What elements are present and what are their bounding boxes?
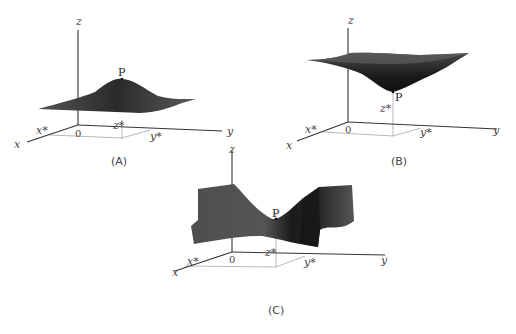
point-p-label: P <box>272 207 280 220</box>
x-star-label: x* <box>36 124 48 137</box>
y-star-label: y* <box>149 130 162 143</box>
origin-label: 0 <box>75 128 81 139</box>
origin-label: 0 <box>229 254 235 265</box>
base-guide <box>323 128 421 136</box>
base-guide <box>50 130 150 138</box>
panel-a: P z y x 0 x* z* y* (A) <box>14 15 234 168</box>
y-axis-label: y <box>492 124 500 137</box>
figure-canvas: P z y x 0 x* z* y* (A) P z y x 0 x* z* y… <box>0 0 516 334</box>
x-star-label: x* <box>305 123 317 136</box>
point-p-label: P <box>118 66 126 79</box>
y-axis-label: y <box>226 125 234 138</box>
x-axis <box>175 252 232 271</box>
z-axis-label: z <box>75 15 82 28</box>
surface-saddle-shadow <box>300 187 320 247</box>
point-p-marker <box>392 91 395 94</box>
y-axis-label: y <box>380 254 388 267</box>
z-star-label: z* <box>112 119 125 132</box>
x-star-label: x* <box>187 255 199 268</box>
z-axis-label: z <box>228 143 235 156</box>
x-axis <box>27 125 78 142</box>
x-axis-label: x <box>286 139 293 152</box>
surface-maximum <box>38 79 196 113</box>
z-star-label: z* <box>264 246 277 259</box>
panel-b: P z y x 0 x* z* y* (B) <box>286 14 500 168</box>
z-star-label: z* <box>379 102 392 115</box>
x-axis-label: x <box>172 266 179 279</box>
caption-c: (C) <box>268 304 284 317</box>
caption-a: (A) <box>111 155 127 168</box>
x-axis-label: x <box>14 138 21 151</box>
y-axis <box>232 252 385 255</box>
point-p-label: P <box>395 91 403 104</box>
z-axis-label: z <box>347 14 354 27</box>
panel-c: P z y x 0 x* z* y* (C) <box>172 143 388 317</box>
caption-b: (B) <box>391 155 407 168</box>
y-star-label: y* <box>419 126 432 139</box>
origin-label: 0 <box>345 124 351 135</box>
y-star-label: y* <box>303 256 316 269</box>
